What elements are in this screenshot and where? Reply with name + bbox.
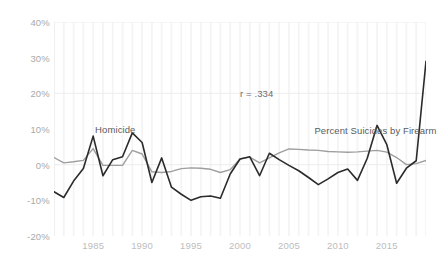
x-axis-tick-label: 1995: [180, 240, 202, 251]
x-axis-tick-label: 1985: [82, 240, 104, 251]
suicide-series-label: Percent Suicides by Firearm: [314, 125, 436, 136]
y-axis-tick-label: 20%: [30, 88, 50, 99]
homicide-series-label: Homicide: [95, 124, 135, 135]
y-axis-tick-label: 30%: [30, 52, 50, 63]
x-axis-tick-label: 1990: [131, 240, 153, 251]
correlation-annotation: r = .334: [240, 88, 273, 99]
y-axis-tick-label: 10%: [30, 124, 50, 135]
x-axis-tick-label: 2005: [278, 240, 300, 251]
y-axis-ticks: -20%-10%0%10%20%30%40%: [0, 0, 50, 266]
x-axis-tick-label: 2000: [229, 240, 251, 251]
y-axis-tick-label: -10%: [27, 195, 50, 206]
x-axis-tick-label: 2010: [327, 240, 349, 251]
x-axis-ticks: 1985199019952000200520102015: [0, 240, 442, 260]
x-axis-tick-label: 2015: [376, 240, 398, 251]
chart-container: -20%-10%0%10%20%30%40% 19851990199520002…: [0, 0, 442, 266]
y-axis-tick-label: 40%: [30, 17, 50, 28]
y-axis-tick-label: 0%: [36, 159, 50, 170]
